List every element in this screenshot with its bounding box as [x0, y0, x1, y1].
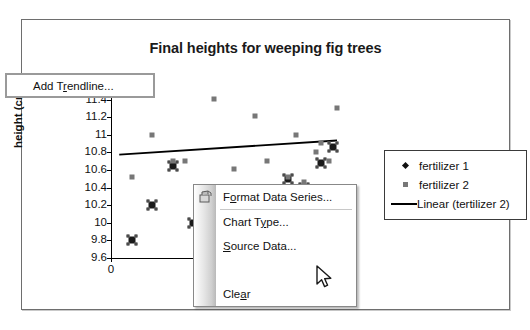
selection-handle[interactable]: [315, 157, 318, 160]
selection-handle[interactable]: [188, 225, 191, 228]
mouse-cursor-arrow-icon: [316, 265, 338, 293]
data-point[interactable]: [314, 150, 319, 155]
menu-item-label: Chart Type...: [216, 216, 289, 228]
legend-entry-fertilizer-1[interactable]: fertilizer 1: [391, 156, 520, 175]
y-tick-label: 10.6: [85, 164, 107, 176]
selection-handle[interactable]: [155, 208, 158, 211]
diamond-marker-icon: [391, 163, 419, 168]
data-point[interactable]: [293, 132, 298, 137]
trendline-segment[interactable]: [119, 141, 337, 155]
data-point[interactable]: [129, 175, 134, 180]
data-point[interactable]: [252, 114, 257, 119]
selection-handle[interactable]: [147, 208, 150, 211]
square-marker-icon: [391, 182, 419, 187]
x-axis-tick: [111, 258, 112, 262]
legend-entry-linear-trendline[interactable]: Linear (tertilizer 2): [391, 194, 520, 213]
selection-handle[interactable]: [335, 150, 338, 153]
data-point[interactable]: [318, 140, 323, 145]
legend-label: fertilizer 2: [419, 179, 469, 191]
selection-handle[interactable]: [147, 200, 150, 203]
selection-handle[interactable]: [134, 235, 137, 238]
y-tick-label: 10.2: [85, 199, 107, 211]
data-point[interactable]: [232, 167, 237, 172]
y-tick-label: 9.6: [91, 252, 107, 264]
y-tick-label: 9.8: [91, 234, 107, 246]
selection-handle[interactable]: [126, 235, 129, 238]
y-axis-tick-labels: 11.611.411.21110.810.610.410.2109.89.6: [67, 82, 107, 259]
y-tick-label: 11.2: [85, 111, 107, 123]
data-point[interactable]: [211, 96, 216, 101]
legend-entry-fertilizer-2[interactable]: fertilizer 2: [391, 175, 520, 194]
data-point-selected[interactable]: [127, 236, 136, 245]
menu-item-chart-type[interactable]: Chart Type...: [194, 210, 356, 234]
line-marker-icon: [391, 203, 417, 205]
data-point[interactable]: [182, 159, 187, 164]
data-point[interactable]: [265, 159, 270, 164]
chart-legend[interactable]: fertilizer 1 fertilizer 2 Linear (tertil…: [384, 150, 527, 220]
data-point[interactable]: [326, 159, 331, 164]
y-tick-label: 10.4: [85, 182, 107, 194]
selection-handle[interactable]: [134, 243, 137, 246]
data-point-selected[interactable]: [328, 143, 337, 152]
data-point[interactable]: [170, 159, 175, 164]
menu-item-source-data[interactable]: Source Data...: [194, 234, 356, 258]
data-point-selected[interactable]: [316, 158, 325, 167]
data-point[interactable]: [150, 132, 155, 137]
chart-title[interactable]: Final heights for weeping fig trees: [22, 40, 509, 56]
data-point[interactable]: [285, 175, 290, 180]
selection-handle[interactable]: [126, 243, 129, 246]
selection-handle[interactable]: [155, 200, 158, 203]
format-series-icon-glyph: [198, 190, 213, 204]
y-tick-label: 10: [94, 217, 107, 229]
menu-item-format-data-series[interactable]: Format Data Series...: [194, 185, 356, 209]
selection-handle[interactable]: [335, 142, 338, 145]
selection-handle[interactable]: [175, 169, 178, 172]
y-tick-label: 11: [95, 129, 107, 141]
selection-handle[interactable]: [323, 165, 326, 168]
legend-label: Linear (tertilizer 2): [417, 198, 510, 210]
selection-handle[interactable]: [290, 173, 293, 176]
data-point-selected[interactable]: [148, 201, 157, 210]
selection-handle[interactable]: [327, 142, 330, 145]
selection-handle[interactable]: [315, 165, 318, 168]
data-point[interactable]: [335, 105, 340, 110]
format-series-icon: [194, 190, 216, 204]
menu-item-label: Clear: [216, 288, 251, 300]
legend-label: fertilizer 1: [419, 160, 469, 172]
menu-item-add-trendline[interactable]: Add Trendline...: [5, 73, 155, 98]
x-tick-label: 0: [108, 263, 114, 275]
menu-item-label: Format Data Series...: [216, 191, 332, 203]
menu-item-label: Add Trendline...: [7, 80, 114, 92]
selection-handle[interactable]: [188, 217, 191, 220]
y-tick-label: 10.8: [85, 146, 107, 158]
menu-item-label: Source Data...: [216, 240, 297, 252]
selection-handle[interactable]: [167, 169, 170, 172]
selection-handle[interactable]: [327, 150, 330, 153]
selection-handle[interactable]: [175, 161, 178, 164]
